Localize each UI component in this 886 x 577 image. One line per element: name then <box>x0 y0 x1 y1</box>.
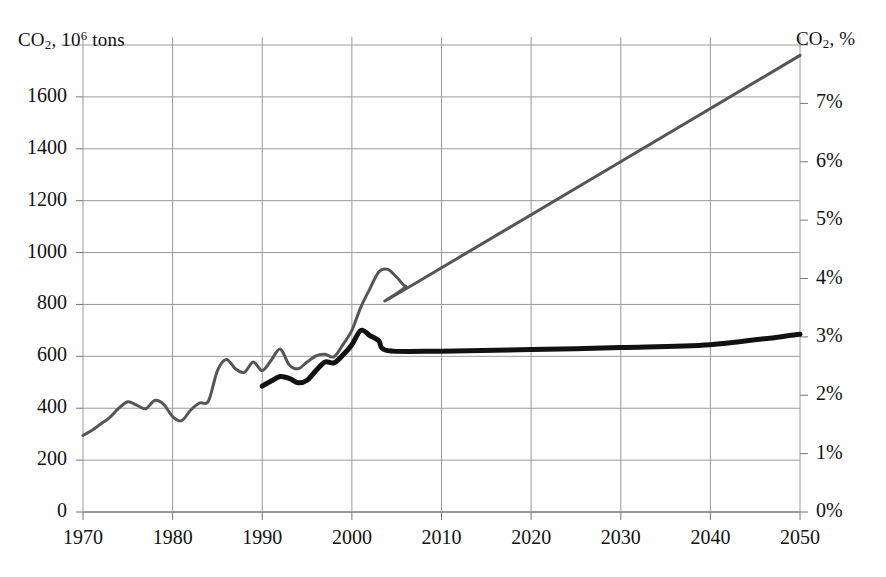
right-label-prefix: CO <box>796 28 823 49</box>
left-label-suffix: tons <box>87 29 124 50</box>
chart-container: CO2, 106 tons CO2, % 0200400600800100012… <box>0 0 886 577</box>
x-axis-tick: 2020 <box>491 526 571 549</box>
x-axis-tick: 2040 <box>670 526 750 549</box>
y-axis-right-label: CO2, % <box>796 28 855 52</box>
x-axis-tick: 2000 <box>312 526 392 549</box>
x-axis-tick: 2030 <box>581 526 661 549</box>
right-label-suffix: , % <box>829 28 855 49</box>
x-axis-tick: 2010 <box>402 526 482 549</box>
y-axis-left-tick: 800 <box>7 291 67 314</box>
y-axis-right-tick: 3% <box>816 324 876 347</box>
left-label-mid: , 10 <box>51 29 80 50</box>
y-axis-right-tick: 7% <box>816 90 876 113</box>
y-axis-left-tick: 1200 <box>7 188 67 211</box>
y-axis-left-tick: 600 <box>7 343 67 366</box>
y-axis-left-tick: 1600 <box>7 84 67 107</box>
y-axis-right-tick: 2% <box>816 382 876 405</box>
x-axis-tick: 1980 <box>133 526 213 549</box>
y-axis-right-tick: 0% <box>816 499 876 522</box>
y-axis-left-tick: 0 <box>7 499 67 522</box>
y-axis-right-tick: 6% <box>816 149 876 172</box>
y-axis-right-tick: 1% <box>816 441 876 464</box>
y-axis-left-tick: 1000 <box>7 240 67 263</box>
y-axis-left-tick: 1400 <box>7 136 67 159</box>
y-axis-left-tick: 200 <box>7 447 67 470</box>
y-axis-left-tick: 400 <box>7 395 67 418</box>
x-axis-tick: 1990 <box>222 526 302 549</box>
y-axis-right-tick: 5% <box>816 207 876 230</box>
x-axis-tick: 2050 <box>760 526 840 549</box>
x-axis-tick: 1970 <box>43 526 123 549</box>
chart-plot-area <box>0 0 886 577</box>
left-label-prefix: CO <box>18 29 45 50</box>
y-axis-left-label: CO2, 106 tons <box>18 28 125 53</box>
y-axis-right-tick: 4% <box>816 266 876 289</box>
